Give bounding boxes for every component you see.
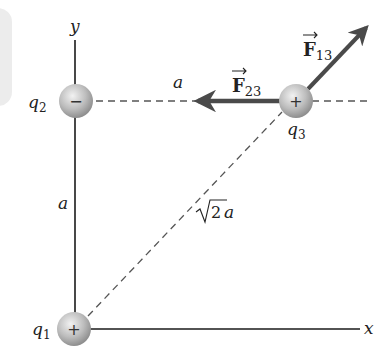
distance-vertical-label: a [58, 193, 68, 213]
charge-q3-label: q3 [287, 119, 306, 142]
distance-horizontal-label: a [173, 72, 183, 92]
charge-q1-sign: + [67, 320, 80, 339]
charge-diagram: y x − + + q2 q1 q3 a a 2 a F23 F13 [0, 0, 392, 361]
distance-diagonal-label: 2 a [196, 200, 234, 222]
svg-text:F23: F23 [232, 75, 261, 99]
charge-q3-sign: + [289, 92, 302, 111]
charge-q2-label: q2 [28, 92, 47, 115]
charge-q1-label: q1 [32, 319, 51, 342]
diagonal-dashed-line [88, 112, 282, 316]
y-axis-label: y [69, 16, 80, 36]
force-f13-label: F13 [303, 32, 332, 63]
charge-q2-sign: − [69, 92, 82, 111]
svg-text:2: 2 [211, 203, 221, 222]
x-axis-label: x [364, 318, 374, 338]
force-f23-label: F23 [232, 68, 261, 99]
svg-text:F13: F13 [303, 39, 332, 63]
svg-text:a: a [224, 202, 234, 222]
